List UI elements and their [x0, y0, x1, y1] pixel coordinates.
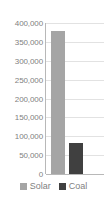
y-tick-label: 200,000 [15, 94, 43, 103]
legend-item-solar[interactable]: Solar [20, 181, 51, 191]
y-tick-label: 150,000 [15, 113, 43, 122]
legend-label-coal: Coal [69, 181, 88, 191]
legend-item-coal[interactable]: Coal [59, 181, 88, 191]
gridline [46, 174, 104, 175]
gridline [46, 23, 104, 24]
y-tick-label: 0 [39, 170, 43, 179]
bar-chart: 400,000350,000300,000250,000200,000150,0… [0, 0, 107, 199]
bar-coal[interactable] [69, 143, 83, 174]
chart-legend: Solar Coal [0, 181, 107, 191]
legend-swatch-coal [59, 183, 66, 190]
y-tick-label: 50,000 [19, 151, 43, 160]
plot-area [45, 23, 104, 174]
y-axis-tick-labels: 400,000350,000300,000250,000200,000150,0… [0, 23, 43, 174]
y-tick-label: 300,000 [15, 56, 43, 65]
y-tick-label: 400,000 [15, 19, 43, 28]
legend-label-solar: Solar [30, 181, 51, 191]
bar-solar[interactable] [51, 31, 65, 174]
y-tick-label: 250,000 [15, 75, 43, 84]
y-tick-label: 100,000 [15, 132, 43, 141]
legend-swatch-solar [20, 183, 27, 190]
y-tick-label: 350,000 [15, 37, 43, 46]
